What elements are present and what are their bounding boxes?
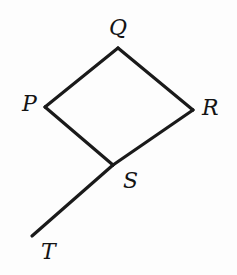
segment-sp [45, 107, 113, 165]
vertex-label-r: R [202, 97, 219, 119]
vertex-label-s: S [123, 170, 138, 192]
segment-rs [113, 110, 193, 165]
vertex-label-t: T [41, 241, 56, 263]
vertex-label-q: Q [109, 17, 127, 39]
vertex-label-p: P [22, 93, 37, 115]
segment-st-ray [32, 165, 113, 236]
figure-svg [0, 0, 237, 275]
segment-qr [118, 48, 193, 110]
segment-pq [45, 48, 118, 107]
geometry-figure-canvas: Q P R S T [0, 0, 237, 275]
